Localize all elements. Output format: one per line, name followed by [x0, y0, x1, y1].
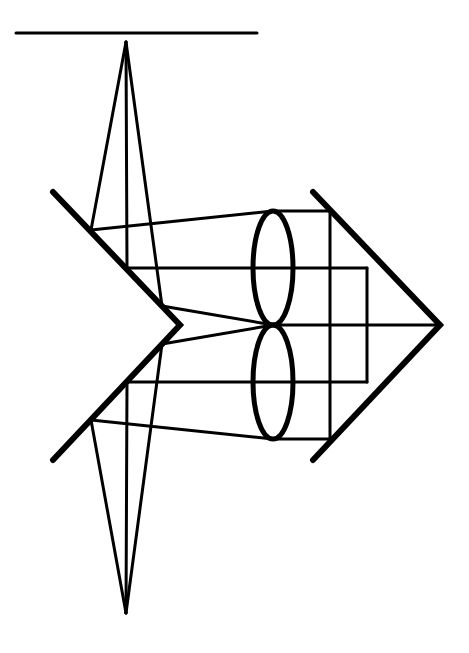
optical-diagram: [0, 0, 469, 653]
lens-to-mirror-rays: [273, 211, 440, 439]
left-mirror-chevron: [53, 192, 180, 460]
